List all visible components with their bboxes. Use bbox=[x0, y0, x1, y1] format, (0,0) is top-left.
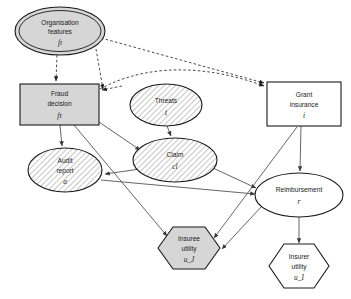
grant-insurance-label-line2: insurance bbox=[290, 101, 319, 108]
fraud-decision-label-line2: decision bbox=[47, 100, 72, 107]
node-insurer-utility[interactable]: Insurer utility u_I bbox=[269, 244, 329, 288]
audit-report-label-line2: report bbox=[56, 167, 73, 175]
node-reimbursement[interactable]: Reimbursement r bbox=[255, 173, 343, 217]
claim-ellipse bbox=[133, 138, 217, 182]
insurer-utility-label-line1: Insurer bbox=[289, 253, 310, 260]
threats-label-line1: Threats bbox=[155, 97, 178, 104]
insuree-utility-label-line1: Insuree bbox=[178, 235, 200, 242]
node-insuree-utility[interactable]: Insuree utility u_J bbox=[158, 227, 220, 269]
insurer-utility-symbol: u_I bbox=[294, 273, 304, 282]
edge-threats-to-claim bbox=[167, 126, 171, 136]
edge-organisation-features-to-fraud-decision-right bbox=[96, 49, 103, 89]
organisation-features-symbol: fı bbox=[58, 38, 62, 47]
insurer-utility-label-line2: utility bbox=[291, 263, 307, 271]
claim-symbol: cl bbox=[172, 162, 177, 171]
edge-organisation-features-to-fraud-decision bbox=[56, 55, 57, 81]
organisation-features-label-line1: Organisation bbox=[41, 19, 79, 27]
insuree-utility-label-line2: utility bbox=[181, 245, 197, 253]
edge-fraud-decision-to-claim bbox=[99, 122, 140, 150]
node-grant-insurance[interactable]: Grant insurance i bbox=[267, 82, 341, 126]
grant-insurance-symbol: i bbox=[303, 111, 305, 120]
node-claim[interactable]: Claim cl bbox=[133, 138, 217, 182]
fraud-decision-label-line1: Fraud bbox=[51, 90, 69, 97]
audit-report-symbol: a bbox=[63, 177, 67, 186]
reimbursement-ellipse bbox=[255, 173, 343, 217]
node-fraud-decision[interactable]: Fraud decision fτ bbox=[20, 84, 99, 125]
fraud-decision-symbol: fτ bbox=[57, 111, 62, 120]
grant-insurance-label-line1: Grant bbox=[296, 91, 313, 98]
edge-fraud-decision-to-audit-report bbox=[60, 125, 62, 146]
edge-grant-insurance-to-reimbursement bbox=[300, 126, 301, 171]
node-organisation-features[interactable]: Organisation features fı bbox=[15, 7, 105, 55]
edge-claim-to-audit-report bbox=[105, 169, 140, 174]
node-threats[interactable]: Threats t bbox=[130, 84, 202, 126]
edge-organisation-features-to-grant-insurance bbox=[101, 38, 264, 83]
reimbursement-label-line1: Reimbursement bbox=[276, 186, 323, 193]
diagram-canvas: Organisation features fı Fraud decision … bbox=[0, 0, 351, 299]
edge-claim-to-reimbursement bbox=[213, 168, 256, 188]
insuree-utility-symbol: u_J bbox=[184, 255, 195, 264]
edge-reimbursement-to-insuree-utility bbox=[222, 206, 262, 249]
reimbursement-symbol: r bbox=[298, 197, 301, 206]
influence-diagram: Organisation features fı Fraud decision … bbox=[0, 0, 351, 299]
organisation-features-label-line2: features bbox=[48, 28, 73, 35]
claim-label-line1: Claim bbox=[167, 151, 184, 158]
node-audit-report[interactable]: Audit report a bbox=[28, 148, 102, 192]
threats-ellipse bbox=[130, 84, 202, 126]
audit-report-label-line1: Audit bbox=[57, 157, 72, 164]
